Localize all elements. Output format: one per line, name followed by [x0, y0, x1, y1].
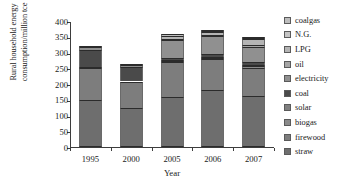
legend-swatch-icon [284, 61, 291, 68]
legend-label: oil [295, 60, 304, 69]
x-tick [274, 148, 275, 151]
bar-segment-coalgas[interactable] [242, 37, 265, 38]
y-tick-label: 100 [44, 112, 68, 121]
x-axis-line [70, 147, 274, 148]
legend-swatch-icon [284, 31, 291, 38]
bar-segment-coalgas[interactable] [161, 34, 184, 35]
y-axis-title-line-1: Rural household energy [9, 0, 20, 117]
y-tick-label: 400 [44, 18, 68, 27]
bar-segment-oil[interactable] [161, 39, 184, 40]
x-tick [192, 148, 193, 151]
bar-segment-firewood[interactable] [79, 68, 102, 100]
bar-segment-coal[interactable] [201, 54, 224, 57]
legend-label: solar [295, 103, 311, 112]
bar-segment-coalgas[interactable] [201, 30, 224, 31]
bar-segment-electricity[interactable] [79, 47, 102, 50]
bar-1995[interactable] [79, 47, 102, 147]
legend-item-oil[interactable]: oil [284, 57, 354, 72]
bar-segment-LPG[interactable] [242, 39, 265, 45]
y-tick-label: 350 [44, 33, 68, 42]
legend-swatch-icon [284, 75, 291, 82]
legend-label: coal [295, 89, 309, 98]
chart-figure: Rural household energy consumption/milli… [0, 0, 354, 191]
bar-segment-oil[interactable] [201, 35, 224, 37]
bar-segment-LPG[interactable] [201, 32, 224, 35]
y-tick-label: 200 [44, 81, 68, 90]
x-tick [152, 148, 153, 151]
bar-segment-straw[interactable] [161, 97, 184, 147]
x-tick [70, 148, 71, 151]
legend-item-electricity[interactable]: electricity [284, 71, 354, 86]
legend-label: electricity [295, 74, 328, 83]
x-tick-label: 2005 [150, 155, 194, 164]
bar-segment-oil[interactable] [242, 45, 265, 46]
bar-segment-electricity[interactable] [242, 47, 265, 63]
bar-2005[interactable] [161, 35, 184, 147]
legend-label: N.G. [295, 30, 311, 39]
legend-swatch-icon [284, 17, 291, 24]
bar-segment-solar[interactable] [242, 65, 265, 66]
y-tick-label: 300 [44, 49, 68, 58]
bar-segment-biogas[interactable] [242, 66, 265, 68]
legend-label: straw [295, 147, 313, 156]
bar-segment-oil[interactable] [79, 46, 102, 47]
legend-label: LPG [295, 45, 311, 54]
y-tick-label: 0 [44, 144, 68, 153]
plot-area: 050100150200250300350400 199520002005200… [70, 22, 274, 148]
bar-segment-firewood[interactable] [161, 62, 184, 97]
legend-item-biogas[interactable]: biogas [284, 115, 354, 130]
bar-segment-firewood[interactable] [242, 68, 265, 96]
bar-segment-electricity[interactable] [201, 36, 224, 54]
legend-item-straw[interactable]: straw [284, 144, 354, 159]
legend-swatch-icon [284, 90, 291, 97]
bar-segment-LPG[interactable] [161, 36, 184, 39]
bar-segment-N.G.[interactable] [242, 38, 265, 39]
legend-item-solar[interactable]: solar [284, 101, 354, 116]
x-tick-label: 2007 [232, 155, 276, 164]
legend-label: firewood [295, 133, 325, 142]
bar-segment-coal[interactable] [161, 58, 184, 61]
bar-segment-firewood[interactable] [120, 82, 143, 108]
y-axis-title: Rural household energy consumption/milli… [9, 0, 33, 117]
bar-segment-coal[interactable] [120, 67, 143, 80]
bar-segment-biogas[interactable] [201, 58, 224, 60]
bar-2007[interactable] [242, 37, 265, 147]
bar-segment-electricity[interactable] [161, 40, 184, 57]
x-tick-label: 2006 [191, 155, 235, 164]
legend-item-ng[interactable]: N.G. [284, 28, 354, 43]
legend-item-firewood[interactable]: firewood [284, 130, 354, 145]
bar-segment-firewood[interactable] [201, 59, 224, 90]
bar-2000[interactable] [120, 65, 143, 147]
legend-label: coalgas [295, 16, 320, 25]
x-tick-label: 2000 [109, 155, 153, 164]
legend-swatch-icon [284, 104, 291, 111]
legend-item-lpg[interactable]: LPG [284, 42, 354, 57]
x-tick [111, 148, 112, 151]
bar-segment-N.G.[interactable] [201, 31, 224, 32]
legend-swatch-icon [284, 46, 291, 53]
legend-swatch-icon [284, 119, 291, 126]
bar-segment-straw[interactable] [120, 108, 143, 147]
x-tick [233, 148, 234, 151]
bar-segment-biogas[interactable] [161, 61, 184, 62]
legend-label: biogas [295, 118, 317, 127]
bar-2006[interactable] [201, 31, 224, 147]
bar-segment-N.G.[interactable] [161, 35, 184, 36]
bar-segment-coal[interactable] [242, 62, 265, 65]
y-tick-label: 50 [44, 128, 68, 137]
y-tick-label: 150 [44, 96, 68, 105]
legend-swatch-icon [284, 148, 291, 155]
bar-segment-straw[interactable] [242, 96, 265, 147]
y-tick-label: 250 [44, 65, 68, 74]
bar-segment-coal[interactable] [79, 50, 102, 67]
x-axis-title: Year [70, 168, 274, 178]
y-axis-title-line-2: consumption/million tce [20, 0, 31, 117]
legend: coalgasN.G.LPGoilelectricitycoalsolarbio… [284, 13, 354, 159]
legend-item-coalgas[interactable]: coalgas [284, 13, 354, 28]
bar-segment-oil[interactable] [120, 64, 143, 65]
bar-segment-straw[interactable] [79, 100, 102, 147]
bar-segment-straw[interactable] [201, 90, 224, 147]
legend-item-coal[interactable]: coal [284, 86, 354, 101]
bar-segment-electricity[interactable] [120, 65, 143, 67]
legend-swatch-icon [284, 134, 291, 141]
